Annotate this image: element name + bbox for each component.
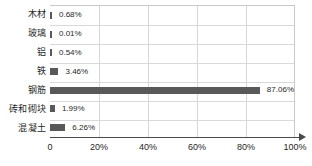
bar-data-label: 3.46% [65, 68, 88, 76]
category-axis-label: 玻璃 [0, 24, 50, 43]
value-axis-tick-label: 60% [188, 143, 206, 152]
category-axis-label: 钢筋 [0, 81, 50, 100]
table-row: 0.68% [50, 6, 294, 25]
value-axis-arrow-icon [299, 133, 306, 141]
bar [50, 87, 260, 94]
bar-data-label: 0.68% [59, 11, 82, 19]
bar [50, 31, 52, 38]
value-axis-tick-label: 80% [237, 143, 255, 152]
table-row: 0.01% [50, 25, 294, 44]
category-axis-label: 混凝土 [0, 119, 50, 138]
category-axis-label: 木材 [0, 5, 50, 24]
value-axis-tick-label: 100% [283, 143, 306, 152]
bar-data-label: 1.99% [62, 105, 85, 113]
table-row: 87.06% [50, 81, 294, 100]
table-row: 0.54% [50, 43, 294, 62]
bar [50, 49, 52, 56]
bar [50, 12, 52, 19]
category-axis-label: 砖和砌块 [0, 100, 50, 119]
bar-series: 0.68% 0.01% 0.54% 3.46% 87.06% 1.99% [50, 6, 294, 137]
value-axis: 020%40%60%80%100% [0, 143, 312, 159]
category-axis: 木材 玻璃 铝 铁 钢筋 砖和砌块 混凝土 [0, 5, 50, 138]
table-row: 3.46% [50, 62, 294, 81]
value-axis-tick-label: 20% [90, 143, 108, 152]
bar [50, 105, 55, 112]
bar-data-label: 0.54% [59, 49, 82, 57]
bar-data-label: 0.01% [59, 30, 82, 38]
horizontal-bar-chart: 木材 玻璃 铝 铁 钢筋 砖和砌块 混凝土 0.68% 0.01% 0.54% [0, 0, 312, 166]
value-axis-line [50, 137, 302, 138]
bar-data-label: 87.06% [267, 86, 294, 94]
bar [50, 68, 58, 75]
bar-data-label: 6.26% [72, 124, 95, 132]
category-axis-label: 铝 [0, 43, 50, 62]
bar [50, 124, 65, 131]
value-axis-tick-label: 40% [139, 143, 157, 152]
value-axis-tick-label: 0 [47, 143, 52, 152]
plot-area: 0.68% 0.01% 0.54% 3.46% 87.06% 1.99% [50, 5, 295, 138]
table-row: 6.26% [50, 118, 294, 137]
table-row: 1.99% [50, 100, 294, 119]
category-axis-label: 铁 [0, 62, 50, 81]
